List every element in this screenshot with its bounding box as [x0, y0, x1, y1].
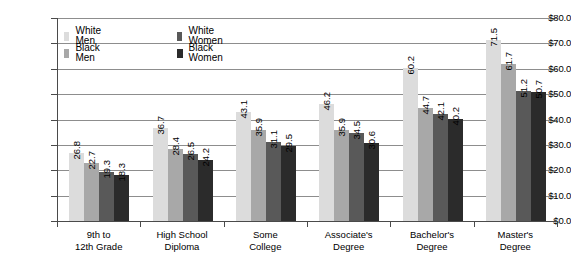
bar — [319, 104, 334, 221]
x-axis-category-label: Master'sDegree — [474, 229, 557, 252]
bar — [418, 108, 433, 221]
x-axis-category-label: SomeCollege — [224, 229, 307, 252]
legend-swatch-icon — [177, 49, 183, 58]
x-axis-category-label: Bachelor'sDegree — [390, 229, 473, 252]
bar-value-label: 19.3 — [102, 160, 112, 179]
bar — [266, 142, 281, 221]
bar-value-label: 61.7 — [503, 52, 513, 71]
legend-label: Black Men — [75, 43, 103, 63]
legend-swatch-icon — [177, 32, 182, 41]
bar-value-label: 18.3 — [117, 163, 127, 182]
x-axis-tick — [390, 221, 391, 227]
bar-value-label: 36.7 — [155, 116, 165, 135]
x-axis-label-line: High School — [140, 229, 223, 241]
bar — [448, 119, 463, 221]
bar-value-label: 34.5 — [352, 121, 362, 140]
x-axis-category-label: 9th to12th Grade — [57, 229, 140, 252]
x-axis-label-line: Diploma — [140, 241, 223, 253]
x-axis-label-line: Degree — [474, 241, 557, 253]
x-axis-category-label: Associate'sDegree — [307, 229, 390, 252]
x-axis-tick — [307, 221, 308, 227]
bar-chart: $0.0$10.0$20.0$30.0$40.0$50.0$60.0$70.0$… — [0, 0, 571, 267]
bar — [501, 64, 516, 221]
bar-value-label: 50.7 — [533, 80, 543, 99]
x-axis-tick — [557, 221, 558, 227]
bar — [183, 154, 198, 221]
bar-value-label: 29.5 — [283, 134, 293, 153]
bar-value-label: 46.2 — [322, 92, 332, 111]
bar-value-label: 24.2 — [200, 148, 210, 167]
bar — [349, 133, 364, 221]
x-axis-tick — [224, 221, 225, 227]
bar-value-label: 28.4 — [170, 137, 180, 156]
legend-item: Black Women — [177, 43, 226, 63]
bar — [531, 92, 546, 221]
x-axis-tick — [57, 221, 58, 227]
bar-value-label: 26.8 — [72, 141, 82, 160]
bar-value-label: 60.2 — [405, 56, 415, 75]
bar — [153, 128, 168, 221]
bar-value-label: 30.6 — [367, 131, 377, 150]
bar — [69, 153, 84, 221]
x-axis-tick — [474, 221, 475, 227]
x-axis-label-line: Master's — [474, 229, 557, 241]
bar — [84, 163, 99, 221]
bar — [364, 143, 379, 221]
bar — [433, 114, 448, 221]
bar — [168, 149, 183, 221]
x-axis-label-line: 12th Grade — [57, 241, 140, 253]
bar-value-label: 40.2 — [450, 107, 460, 126]
legend-swatch-icon — [64, 32, 69, 41]
bar-value-label: 43.1 — [238, 100, 248, 119]
bar-value-label: 35.9 — [253, 118, 263, 137]
x-axis-label-line: Degree — [390, 241, 473, 253]
legend-swatch-icon — [64, 49, 69, 58]
bar-value-label: 42.1 — [435, 102, 445, 121]
x-axis-label-line: Degree — [307, 241, 390, 253]
x-axis-category-label: High SchoolDiploma — [140, 229, 223, 252]
bar-value-label: 22.7 — [87, 151, 97, 170]
x-axis-tick — [140, 221, 141, 227]
x-axis-label-line: Bachelor's — [390, 229, 473, 241]
bar-value-label: 35.9 — [337, 118, 347, 137]
legend-label: Black Women — [189, 43, 227, 63]
bar — [99, 172, 114, 221]
bar — [198, 160, 213, 221]
bar-value-label: 44.7 — [420, 96, 430, 115]
bar-value-label: 71.5 — [488, 28, 498, 47]
bar — [236, 112, 251, 221]
x-axis-label-line: Associate's — [307, 229, 390, 241]
bar — [281, 146, 296, 221]
bar — [403, 68, 418, 221]
bar — [516, 91, 531, 221]
bar-value-label: 51.2 — [518, 79, 528, 98]
bar — [486, 40, 501, 221]
bar — [251, 130, 266, 221]
bar — [334, 130, 349, 221]
x-axis-label-line: 9th to — [57, 229, 140, 241]
legend-item: Black Men — [64, 43, 103, 63]
bar-value-label: 31.1 — [268, 130, 278, 149]
bar — [114, 175, 129, 221]
x-axis-label-line: Some — [224, 229, 307, 241]
bar-value-label: 26.5 — [185, 142, 195, 161]
x-axis-label-line: College — [224, 241, 307, 253]
